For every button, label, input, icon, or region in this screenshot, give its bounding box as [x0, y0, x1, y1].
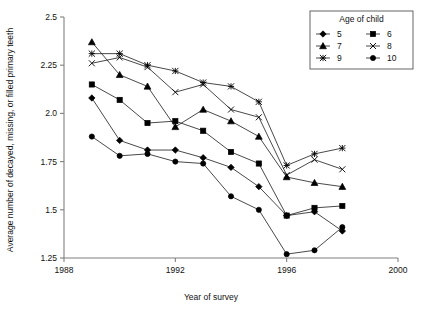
marker-triangle: [200, 106, 207, 112]
marker-circle: [340, 225, 345, 230]
marker-square: [117, 97, 122, 102]
marker-circle: [370, 55, 375, 60]
x-tick-label: 2000: [389, 265, 408, 275]
marker-square: [145, 120, 150, 125]
marker-diamond: [172, 147, 178, 153]
y-tick-label: 1.75: [40, 157, 57, 167]
y-tick-label: 1.25: [40, 253, 57, 263]
legend-entry-label: 10: [387, 53, 397, 63]
marker-square: [89, 82, 94, 87]
dmft-by-age-line-chart: 1.251.51.752.02.252.51988199219962000Yea…: [0, 0, 423, 312]
x-tick-label: 1996: [277, 265, 296, 275]
marker-diamond: [200, 155, 206, 161]
marker-square: [370, 31, 375, 36]
legend: Age of child5678910: [310, 11, 413, 69]
series-8: [89, 54, 346, 178]
series-line-5: [92, 98, 343, 231]
series-line-9: [92, 54, 343, 166]
marker-diamond: [89, 95, 95, 101]
x-tick-label: 1992: [166, 265, 185, 275]
marker-circle: [228, 194, 233, 199]
marker-triangle: [255, 133, 262, 139]
legend-entry-label: 8: [387, 41, 392, 51]
marker-square: [312, 205, 317, 210]
series-6: [89, 82, 345, 218]
series-line-10: [92, 137, 343, 255]
series-9: [89, 51, 346, 169]
marker-diamond: [116, 137, 122, 143]
x-axis-title: Year of survey: [184, 292, 239, 302]
legend-title: Age of child: [339, 14, 384, 24]
marker-circle: [173, 159, 178, 164]
marker-square: [228, 149, 233, 154]
legend-entry-label: 5: [337, 29, 342, 39]
marker-diamond: [228, 164, 234, 170]
marker-square: [340, 203, 345, 208]
marker-triangle: [228, 118, 235, 124]
series-line-8: [92, 57, 343, 175]
marker-triangle: [144, 83, 151, 89]
y-tick-label: 2.0: [45, 108, 57, 118]
marker-circle: [256, 207, 261, 212]
marker-circle: [201, 161, 206, 166]
legend-entry-label: 9: [337, 53, 342, 63]
marker-circle: [117, 153, 122, 158]
y-tick-label: 2.5: [45, 12, 57, 22]
y-tick-label: 2.25: [40, 60, 57, 70]
chart-container: 1.251.51.752.02.252.51988199219962000Yea…: [0, 0, 423, 312]
marker-triangle: [172, 123, 179, 129]
series-line-6: [92, 84, 343, 215]
legend-entry-label: 7: [337, 41, 342, 51]
marker-triangle: [88, 39, 95, 45]
marker-square: [201, 128, 206, 133]
x-tick-label: 1988: [55, 265, 74, 275]
marker-circle: [312, 248, 317, 253]
series-10: [89, 134, 345, 257]
y-axis-title: Average number of decayed, missing, or f…: [5, 28, 15, 253]
marker-square: [284, 213, 289, 218]
y-tick-label: 1.5: [45, 205, 57, 215]
legend-entry-label: 6: [387, 29, 392, 39]
series-7: [88, 39, 345, 190]
marker-circle: [284, 252, 289, 257]
marker-circle: [145, 151, 150, 156]
marker-square: [256, 161, 261, 166]
marker-circle: [89, 134, 94, 139]
